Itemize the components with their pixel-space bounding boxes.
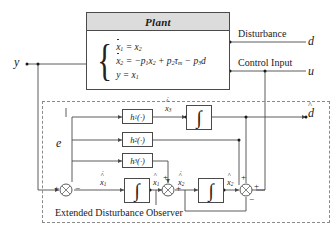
signal-label-d: d [308, 34, 314, 49]
x1-hat-dot-sub: 1 [104, 181, 107, 187]
signal-label-x1-hat-dot: x ^ · 1 [100, 177, 106, 187]
hat-accent: ^ [154, 171, 157, 179]
sum-right-plus: + [254, 181, 259, 191]
x2-dot-symbol: x [116, 56, 120, 66]
sum-right-plus-top: + [241, 172, 246, 182]
integrator-block-x1hat[interactable]: ∫ [124, 178, 150, 203]
signal-label-x3-hat-dot: x ^ · 3 [165, 103, 171, 113]
plant-eq2-e: − p [185, 56, 199, 66]
signal-label-d-hat: d ^ [308, 106, 314, 121]
gain-block-h3[interactable]: h3(·) [122, 153, 153, 168]
integral-icon: ∫ [134, 180, 139, 202]
signal-label-u: u [308, 64, 314, 79]
signal-label-x2-hat: x ^ 2 [227, 177, 233, 187]
plant-eq3-lhs: y [116, 70, 120, 80]
plant-equation-1-rhs-sub: 2 [139, 46, 142, 52]
signal-label-y: y [14, 55, 19, 70]
plant-equation-1: x1 = x2 [116, 42, 206, 52]
plant-eq3-rhs: = x [123, 70, 136, 80]
label-disturbance: Disturbance [238, 28, 286, 39]
x1-dot-sub: 1 [120, 46, 123, 52]
signal-label-x1-hat: x ^ 1 [153, 177, 159, 187]
gain-block-h1[interactable]: h1(·) [122, 109, 153, 124]
sum-error-minus: − [75, 183, 80, 193]
dot-accent: · [102, 168, 104, 176]
plant-eq2-a: = −p [126, 56, 146, 66]
plant-equations: { x1 = x2 x2 = −p1x2 + p2τm − p3d y = x1 [87, 31, 229, 91]
plant-eq2-d-sub: m [178, 60, 182, 66]
gain-h3-arg: (·) [137, 156, 145, 166]
plant-eq2-f: d [201, 56, 206, 66]
integrator-block-x2hat[interactable]: ∫ [198, 178, 224, 203]
plant-block: Plant { x1 = x2 x2 = −p1x2 + p2τm − p3d … [86, 12, 230, 90]
gain-block-h2[interactable]: h2(·) [122, 132, 153, 147]
sum-error-plus: + [54, 183, 59, 193]
integral-icon: ∫ [208, 180, 213, 202]
sum-right-minus: − [249, 194, 254, 204]
integrator-block-dhat[interactable]: ∫ [186, 105, 212, 130]
hat-accent: ^ [228, 171, 231, 179]
gain-h2-arg: (·) [137, 135, 145, 145]
label-control-input: Control Input [238, 57, 292, 68]
sum-mid-plus-right: + [176, 183, 181, 193]
x1-hat-sub: 1 [157, 181, 160, 187]
x2-dot-sub: 2 [120, 60, 123, 66]
x1-dot-symbol: x [116, 42, 120, 52]
plant-equation-3: y = x1 [116, 70, 206, 80]
plant-title: Plant [87, 13, 229, 31]
dot-accent: · [180, 168, 182, 176]
integral-icon: ∫ [196, 107, 201, 129]
plant-eq2-c: + p [158, 56, 172, 66]
x2-hat-sub: 2 [231, 181, 234, 187]
sum-mid-plus-top: + [163, 172, 168, 182]
plant-eq2-b-sub: 2 [153, 60, 156, 66]
plant-equation-1-rhs: = x [126, 42, 139, 52]
hat-accent: ^ [308, 101, 311, 110]
plant-equation-2: x2 = −p1x2 + p2τm − p3d [116, 56, 206, 66]
signal-label-e: e [56, 136, 61, 151]
x2-hat-dot-sub: 2 [182, 181, 185, 187]
plant-eq3-rhs-sub: 1 [136, 74, 139, 80]
x3-hat-dot-sub: 3 [169, 107, 172, 113]
dot-accent: · [167, 94, 169, 102]
observer-caption: Extended Disturbance Observer [55, 207, 183, 218]
gain-h1-arg: (·) [137, 112, 145, 122]
